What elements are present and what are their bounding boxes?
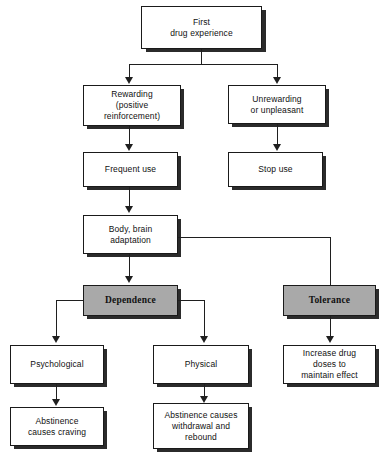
node-label: Rewarding (positive reinforcement) <box>101 89 163 122</box>
node-label: Physical <box>182 359 220 370</box>
node-label: Abstinence causes withdrawal and rebound <box>161 410 240 443</box>
node-label: First drug experience <box>167 17 235 39</box>
node-abstinence-withdrawal[interactable]: Abstinence causes withdrawal and rebound <box>153 403 249 449</box>
edge-dependence-to-psychological-h <box>56 300 84 301</box>
node-physical[interactable]: Physical <box>153 345 249 384</box>
node-label: Stop use <box>255 164 295 175</box>
node-dependence[interactable]: Dependence <box>83 285 178 316</box>
arrowhead-to-psychological <box>52 336 60 343</box>
edge-fork-left-drop <box>129 64 130 78</box>
arrowhead-to-rewarding <box>125 77 133 84</box>
edge-fork-bar <box>129 64 277 65</box>
arrowhead-to-unrewarding <box>273 77 281 84</box>
node-label: Body, brain adaptation <box>106 224 155 246</box>
edge-adaptation-to-tolerance-v <box>330 237 331 285</box>
node-tolerance[interactable]: Tolerance <box>283 285 376 316</box>
node-frequent-use[interactable]: Frequent use <box>83 152 178 187</box>
edge-rewarding-to-frequent-use <box>129 126 130 144</box>
node-unrewarding[interactable]: Unrewarding or unpleasant <box>228 85 326 124</box>
arrowhead-to-adaptation <box>125 206 133 213</box>
node-label: Increase drug doses to maintain effect <box>298 348 361 381</box>
edge-dependence-to-psychological-v <box>56 300 57 336</box>
edge-fork-right-drop <box>277 64 278 78</box>
flowchart-canvas: First drug experience Rewarding (positiv… <box>0 0 391 466</box>
node-label: Frequent use <box>102 164 159 175</box>
node-abstinence-craving[interactable]: Abstinence causes craving <box>10 407 104 446</box>
node-psychological[interactable]: Psychological <box>10 345 104 384</box>
edge-dependence-to-physical-v <box>204 300 205 336</box>
edge-psychological-to-abstinence-craving <box>56 384 57 400</box>
node-label: Psychological <box>27 359 86 370</box>
arrowhead-to-abstinence-withdrawal <box>200 396 208 403</box>
edge-frequent-use-to-adaptation <box>129 187 130 206</box>
node-rewarding[interactable]: Rewarding (positive reinforcement) <box>83 85 181 126</box>
node-first-drug-experience[interactable]: First drug experience <box>141 6 262 49</box>
arrowhead-to-increase-doses <box>326 336 334 343</box>
arrowhead-to-frequent-use <box>125 144 133 151</box>
node-increase-drug-doses[interactable]: Increase drug doses to maintain effect <box>283 345 376 384</box>
edge-adaptation-to-dependence <box>129 254 130 276</box>
arrowhead-to-dependence <box>125 276 133 283</box>
node-label: Unrewarding or unpleasant <box>248 94 307 116</box>
edge-unrewarding-to-stop-use <box>277 124 278 144</box>
node-body-brain-adaptation[interactable]: Body, brain adaptation <box>83 215 178 254</box>
edge-first-to-fork-stem <box>201 48 202 64</box>
edge-adaptation-to-tolerance-h <box>177 237 330 238</box>
node-stop-use[interactable]: Stop use <box>228 152 323 187</box>
arrowhead-to-physical <box>200 336 208 343</box>
arrowhead-to-stop-use <box>273 144 281 151</box>
node-label: Dependence <box>102 295 159 306</box>
arrowhead-to-abstinence-craving <box>52 399 60 406</box>
node-label: Abstinence causes craving <box>25 416 89 438</box>
node-label: Tolerance <box>306 295 354 306</box>
edge-tolerance-to-increase-doses <box>330 315 331 336</box>
edge-dependence-to-physical-h <box>177 300 204 301</box>
